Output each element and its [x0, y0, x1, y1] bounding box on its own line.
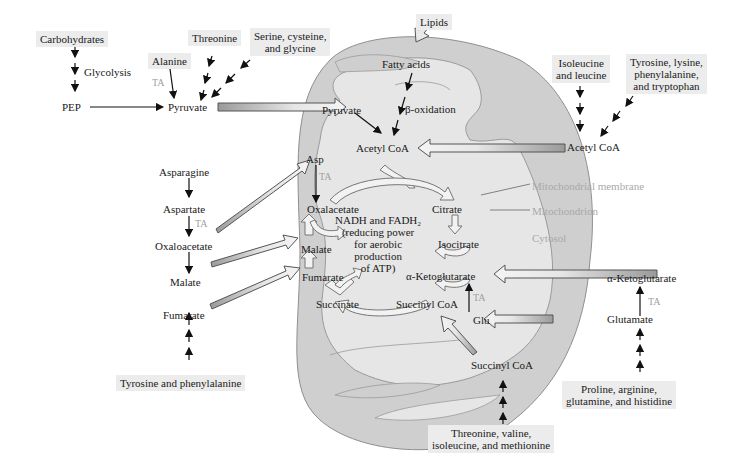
label-glu: Glu — [473, 314, 490, 326]
label-transamination-alanine: TA — [152, 77, 165, 89]
label-malate-cytosol: Malate — [170, 276, 201, 288]
label-glutamate: Glutamate — [607, 313, 653, 325]
label-fumarate-cytosol: Fumarate — [163, 309, 205, 321]
label-succinyl-coa-cytosol: Succinyl CoA — [471, 359, 533, 371]
label-alanine: Alanine — [148, 53, 191, 69]
label-tyrosine-lysine-phenylalanine-tryptophan: Tyrosine, lysine, phenylalanine, and try… — [626, 54, 707, 94]
label-proline-arginine-glutamine-histidine: Proline, arginine, glutamine, and histid… — [562, 381, 676, 409]
label-transamination-aspartate: TA — [195, 218, 208, 230]
label-threonine: Threonine — [188, 30, 241, 46]
label-tyrosine-phenylalanine: Tyrosine and phenylalanine — [116, 375, 245, 391]
label-serine-cysteine-glycine: Serine, cysteine, and glycine — [250, 28, 330, 56]
label-transamination-asp: TA — [319, 171, 332, 183]
label-pyruvate-cytosol: Pyruvate — [168, 101, 207, 113]
label-succinyl-coa-mito: Succinyl CoA — [396, 298, 458, 310]
label-alpha-ketoglutarate-cytosol: α-Ketoglutarate — [607, 272, 676, 284]
label-transamination-glu: TA — [473, 292, 486, 304]
label-nadh-fadh2-note: NADH and FADH₂ (reducing power for aerob… — [335, 214, 421, 274]
label-acetyl-coa-mito: Acetyl CoA — [356, 142, 409, 154]
label-asp: Asp — [306, 153, 324, 165]
label-isoleucine-leucine: Isoleucine and leucine — [552, 55, 610, 83]
label-oxaloacetate-cytosol: Oxaloacetate — [155, 240, 212, 252]
label-glycolysis: Glycolysis — [84, 66, 131, 78]
label-isocitrate: Isocitrate — [438, 238, 479, 250]
label-threonine-valine-isoleucine-methionine: Threonine, valine, isoleucine, and methi… — [428, 425, 554, 453]
metabolic-pathway-diagram: Carbohydrates Glycolysis PEP Alanine Thr… — [0, 0, 742, 470]
legend-cytosol: Cytosol — [532, 232, 566, 244]
label-pyruvate-mito: Pyruvate — [322, 104, 361, 116]
label-asparagine: Asparagine — [159, 166, 209, 178]
label-transamination-glutamate: TA — [648, 296, 661, 308]
label-acetyl-coa-cytosol: Acetyl CoA — [567, 141, 620, 153]
label-citrate: Citrate — [432, 203, 462, 215]
legend-mitochondrial-membrane: Mitochondrial membrane — [532, 180, 644, 192]
label-beta-oxidation: β-oxidation — [405, 103, 456, 115]
legend-mitochondrion: Mitochondrion — [532, 205, 598, 217]
label-malate-mito: Malate — [301, 243, 332, 255]
label-pep: PEP — [62, 101, 81, 113]
label-fatty-acids: Fatty acids — [382, 58, 430, 70]
label-carbohydrates: Carbohydrates — [36, 31, 108, 47]
label-aspartate: Aspartate — [163, 203, 205, 215]
label-succinate: Succinate — [316, 298, 359, 310]
label-lipids: Lipids — [416, 14, 452, 30]
